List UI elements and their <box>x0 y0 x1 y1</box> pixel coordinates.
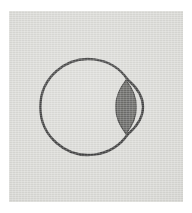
eye-diagram <box>9 11 183 202</box>
globe-outline <box>40 59 128 155</box>
figure-root <box>0 0 192 213</box>
scanned-plate <box>9 11 183 202</box>
lens-body <box>116 80 136 134</box>
